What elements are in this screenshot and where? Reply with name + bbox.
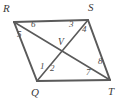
intersection-label-V: V: [58, 38, 64, 48]
edge-RS: [14, 20, 88, 22]
angle-label-6: 6: [31, 20, 36, 29]
angle-label-1: 1: [40, 62, 45, 71]
vertex-label-Q: Q: [31, 87, 39, 98]
edge-TQ: [37, 80, 110, 81]
angle-label-8: 8: [98, 57, 103, 66]
figure-canvas: [0, 0, 123, 105]
diagonal-QS: [37, 20, 88, 81]
edge-ST: [88, 20, 110, 80]
angle-label-7: 7: [86, 68, 91, 77]
vertex-label-R: R: [3, 3, 10, 14]
angle-label-5: 5: [17, 30, 22, 39]
angle-label-3: 3: [69, 20, 74, 29]
angle-label-2: 2: [50, 64, 55, 73]
geometry-figure: R S T Q V 1 2 3 4 5 6 7 8: [0, 0, 123, 105]
angle-label-4: 4: [82, 25, 87, 34]
vertex-label-T: T: [108, 86, 114, 97]
vertex-label-S: S: [88, 2, 94, 13]
